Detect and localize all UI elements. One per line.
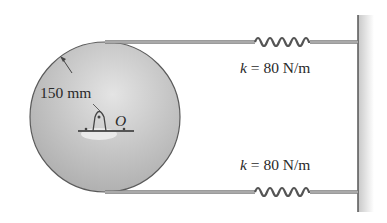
bottom-spring-label: k = 80 N/m [240, 156, 310, 173]
top-spring-k-value: = 80 N/m [247, 59, 310, 76]
top-spring-label: k = 80 N/m [240, 59, 310, 76]
bottom-spring [255, 188, 310, 196]
bottom-spring-k-value: = 80 N/m [247, 156, 310, 173]
radius-label: 150 mm [40, 84, 91, 101]
pivot-label: O [115, 112, 126, 129]
pulley-spring-diagram: 150 mm O k = 80 N/m k = 80 N/m [0, 0, 387, 223]
disk [30, 42, 180, 192]
wall-hatch [358, 15, 374, 212]
top-spring [255, 38, 310, 46]
